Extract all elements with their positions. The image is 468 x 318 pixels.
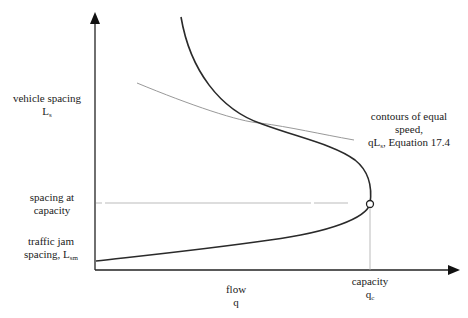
spacing-flow-curve xyxy=(96,17,371,261)
capacity-label-text: capacity xyxy=(345,275,395,288)
x-axis-arrow xyxy=(448,265,460,275)
x-axis-symbol: q xyxy=(216,296,256,309)
equal-speed-contour xyxy=(137,83,354,140)
spacing-at-capacity-line1: spacing at xyxy=(14,191,90,204)
jam-spacing-line1: traffic jam xyxy=(8,235,94,248)
y-axis-arrow xyxy=(90,12,100,24)
contour-label-line3: qLs, Equation 17.4 xyxy=(350,136,468,153)
capacity-symbol: qc xyxy=(345,288,395,305)
jam-spacing-line2: spacing, Lsm xyxy=(8,248,94,265)
x-axis-label: flow q xyxy=(216,283,256,309)
y-axis-symbol: Ls xyxy=(4,105,90,122)
spacing-at-capacity-line2: capacity xyxy=(14,204,90,217)
y-axis-label: vehicle spacing Ls xyxy=(4,92,90,122)
contour-label-line1: contours of equal xyxy=(350,110,468,123)
capacity-point xyxy=(367,201,374,208)
x-axis-label-text: flow xyxy=(216,283,256,296)
jam-spacing-label: traffic jam spacing, Lsm xyxy=(8,235,94,265)
contour-label: contours of equal speed, qLs, Equation 1… xyxy=(350,110,468,153)
capacity-label: capacity qc xyxy=(345,275,395,305)
spacing-at-capacity-label: spacing at capacity xyxy=(14,191,90,217)
flow-spacing-diagram xyxy=(0,0,468,318)
y-axis-label-text: vehicle spacing xyxy=(4,92,90,105)
contour-label-line2: speed, xyxy=(350,123,468,136)
